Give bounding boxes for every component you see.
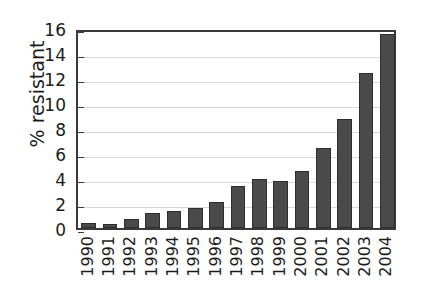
x-tick: 2001	[314, 236, 328, 296]
x-tick-label: 1998	[250, 236, 266, 292]
x-tick-label: 2000	[293, 236, 309, 292]
x-tick: 2003	[357, 236, 371, 296]
x-tick-label: 1997	[229, 236, 245, 292]
x-tick-label: 1993	[144, 236, 160, 292]
x-tick-label: 2004	[378, 236, 394, 292]
x-tick: 2002	[336, 236, 350, 296]
x-tick: 1999	[272, 236, 286, 296]
bar	[380, 34, 395, 228]
x-tick: 1990	[80, 236, 94, 296]
x-tick-label: 1995	[186, 236, 202, 292]
bar	[359, 73, 374, 228]
x-tick: 1995	[186, 236, 200, 296]
x-tick-label: 1991	[101, 236, 117, 292]
y-tick-label: 10	[30, 97, 66, 114]
y-tick-label: 12	[30, 72, 66, 89]
bar	[273, 181, 288, 229]
y-tick-label: 0	[30, 222, 66, 239]
bar	[295, 171, 310, 229]
bar	[145, 213, 160, 228]
x-axis-tick-labels: 1990199119921993199419951996199719981999…	[76, 232, 396, 304]
bar	[167, 211, 182, 229]
x-tick: 1994	[165, 236, 179, 296]
x-tick: 1993	[144, 236, 158, 296]
y-axis-tick-labels: 0246810121416	[30, 0, 66, 306]
bar	[124, 219, 139, 228]
y-tick-label: 16	[30, 22, 66, 39]
bar	[337, 119, 352, 228]
y-tick-label: 2	[30, 197, 66, 214]
bar	[188, 208, 203, 228]
bar	[81, 223, 96, 228]
chart-figure: % resistant 0246810121416 19901991199219…	[0, 0, 432, 306]
x-tick: 2000	[293, 236, 307, 296]
x-tick-label: 2003	[357, 236, 373, 292]
plot-area	[76, 30, 396, 230]
y-tick-label: 6	[30, 147, 66, 164]
x-tick: 1998	[250, 236, 264, 296]
bar	[252, 179, 267, 228]
x-tick-label: 1996	[208, 236, 224, 292]
x-tick: 1996	[208, 236, 222, 296]
x-tick-label: 2001	[314, 236, 330, 292]
x-tick-label: 2002	[336, 236, 352, 292]
y-tick-label: 8	[30, 122, 66, 139]
x-tick: 1992	[122, 236, 136, 296]
x-tick-label: 1990	[80, 236, 96, 292]
y-tick-label: 4	[30, 172, 66, 189]
x-tick: 2004	[378, 236, 392, 296]
bar-series	[78, 32, 394, 228]
x-tick: 1991	[101, 236, 115, 296]
x-tick-label: 1992	[122, 236, 138, 292]
x-tick-label: 1999	[272, 236, 288, 292]
bar	[316, 148, 331, 228]
bar	[103, 224, 118, 228]
bar	[209, 202, 224, 228]
x-tick-label: 1994	[165, 236, 181, 292]
bar	[231, 186, 246, 229]
y-tick-label: 14	[30, 47, 66, 64]
x-tick: 1997	[229, 236, 243, 296]
